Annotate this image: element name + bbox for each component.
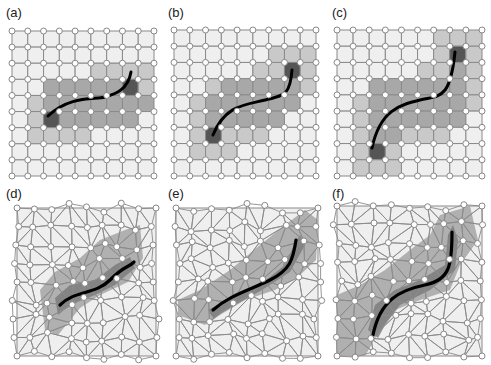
panel-e xyxy=(170,200,325,362)
figure-canvas xyxy=(0,0,491,365)
panel-a xyxy=(9,28,157,179)
panel-f xyxy=(330,199,485,361)
panel-d xyxy=(9,200,162,363)
panel-b xyxy=(171,27,319,179)
panel-c xyxy=(334,27,485,179)
